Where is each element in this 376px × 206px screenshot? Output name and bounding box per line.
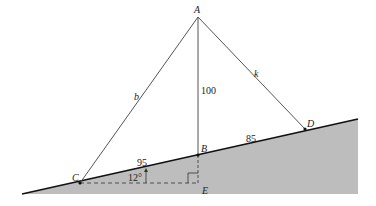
- triangle-diagram: A B C D E b k 100 95 85 12°: [0, 0, 376, 206]
- label-e: E: [201, 185, 208, 196]
- label-side-85: 85: [246, 133, 256, 144]
- side-ad: [198, 17, 305, 129]
- label-side-100: 100: [201, 85, 216, 96]
- label-a: A: [193, 4, 201, 15]
- label-side-95: 95: [137, 157, 147, 168]
- point-c: [78, 181, 81, 184]
- point-b: [196, 153, 199, 156]
- label-c: C: [72, 172, 79, 183]
- label-side-k: k: [254, 68, 259, 79]
- label-d: D: [306, 118, 315, 129]
- label-side-b: b: [134, 91, 139, 102]
- label-angle: 12°: [128, 172, 142, 183]
- label-b: B: [201, 143, 207, 154]
